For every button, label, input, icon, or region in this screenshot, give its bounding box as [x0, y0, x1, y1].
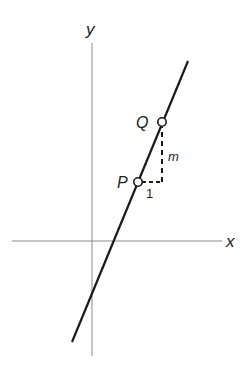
point-p-label: P: [117, 174, 128, 191]
point-q: [158, 118, 166, 126]
run-label: 1: [146, 186, 153, 201]
x-axis-label: x: [225, 232, 235, 251]
rise-label: m: [168, 149, 179, 164]
slope-diagram: y x Q P m 1: [0, 0, 249, 368]
y-axis-label: y: [85, 20, 96, 39]
line: [72, 61, 188, 342]
point-p: [134, 178, 142, 186]
point-q-label: Q: [136, 114, 148, 131]
